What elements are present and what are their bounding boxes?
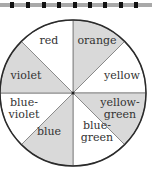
center-point	[72, 92, 75, 95]
sector-label-violet: violet	[10, 69, 42, 82]
sector-label-blue: blue	[37, 125, 61, 138]
sector-label-yellow-green: yellow-green	[99, 96, 140, 121]
sector-label-yellow: yellow	[103, 69, 140, 82]
sector-label-orange: orange	[77, 34, 116, 47]
sector-label-red: red	[40, 34, 59, 47]
sector-label-blue-green: blue-green	[81, 119, 113, 144]
color-wheel: orangeyellowyellow-greenblue-greenbluebl…	[0, 0, 152, 178]
sector-label-blue-violet: blue-violet	[8, 96, 40, 121]
